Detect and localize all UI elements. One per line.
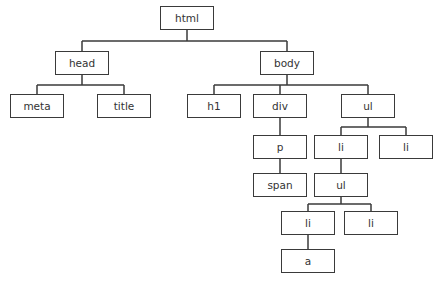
- tree-node-h1: h1: [187, 94, 241, 118]
- tree-node-div: div: [253, 94, 307, 118]
- tree-node-ul1: ul: [341, 94, 395, 118]
- tree-node-li4: li: [344, 211, 398, 235]
- dom-tree-diagram: htmlheadbodymetatitleh1divulplilispanull…: [0, 0, 443, 284]
- tree-node-li3: li: [281, 211, 335, 235]
- tree-node-li1: li: [314, 135, 368, 159]
- tree-node-body: body: [260, 51, 314, 75]
- tree-node-li2: li: [379, 135, 433, 159]
- tree-node-a: a: [281, 249, 335, 273]
- tree-node-meta: meta: [10, 94, 64, 118]
- tree-connectors: [0, 0, 443, 284]
- tree-node-title: title: [97, 94, 151, 118]
- tree-node-ul2: ul: [314, 173, 368, 197]
- tree-node-head: head: [55, 51, 109, 75]
- tree-node-html: html: [160, 6, 214, 30]
- tree-node-p: p: [253, 135, 307, 159]
- tree-node-span: span: [253, 173, 307, 197]
